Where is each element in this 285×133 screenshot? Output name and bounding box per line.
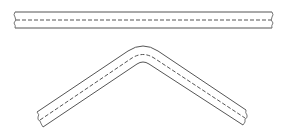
straight-strip	[14, 12, 273, 28]
straight-strip-left-break	[14, 12, 16, 28]
bent-strip-outer-edge	[37, 46, 246, 112]
diagram-canvas	[0, 0, 285, 133]
bent-strip	[37, 46, 247, 127]
bent-strip-inner-edge	[43, 62, 243, 127]
straight-strip-right-break	[271, 12, 273, 28]
bent-strip-centerline	[40, 55, 245, 121]
